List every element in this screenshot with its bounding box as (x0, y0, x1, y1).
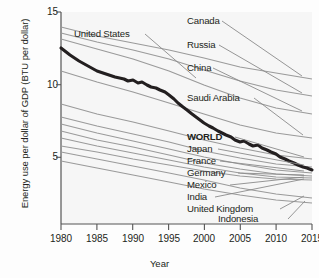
x-tick-2010: 2010 (256, 233, 296, 244)
x-tick-2005: 2005 (220, 233, 260, 244)
x-axis-title: Year (0, 258, 319, 269)
label-china: China (187, 62, 211, 73)
label-russia: Russia (187, 39, 215, 50)
x-tick-2000: 2000 (184, 233, 224, 244)
label-mexico: Mexico (187, 179, 217, 190)
label-saudi-arabia: Saudi Arabia (187, 92, 240, 103)
label-world: WORLD (187, 131, 222, 142)
label-canada: Canada (187, 15, 220, 26)
x-tick-2015: 2015 (292, 233, 319, 244)
label-indonesia: Indonesia (218, 213, 258, 224)
label-japan: Japan (187, 143, 212, 154)
chart-figure: Energy use per dollar of GDP (BTU per do… (0, 0, 319, 278)
x-tick-1990: 1990 (113, 233, 153, 244)
label-france: France (187, 155, 216, 166)
label-united-states: United States (74, 28, 130, 39)
x-tick-1985: 1985 (77, 233, 117, 244)
y-tick-marks (56, 12, 61, 157)
x-tick-marks (61, 224, 312, 230)
x-tick-1980: 1980 (41, 233, 81, 244)
x-tick-1995: 1995 (149, 233, 189, 244)
label-india: India (187, 191, 207, 202)
label-germany: Germany (187, 167, 225, 178)
